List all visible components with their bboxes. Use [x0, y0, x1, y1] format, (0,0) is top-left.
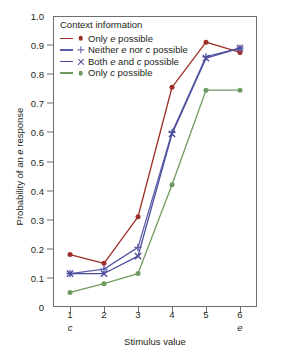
- series-line: [70, 48, 240, 274]
- data-point-dot: [238, 88, 243, 93]
- data-point-dot: [204, 88, 209, 93]
- data-point-dot: [68, 252, 73, 257]
- data-point-dot: [204, 40, 209, 45]
- series-dot: [68, 40, 243, 266]
- data-point-dot: [102, 281, 107, 286]
- data-point-dot: [102, 261, 107, 266]
- chart-container: 00.10.20.30.40.50.60.70.80.91.0 Probabil…: [0, 0, 286, 358]
- series-line: [70, 48, 240, 274]
- series-cross: [67, 45, 243, 277]
- data-point-dot: [170, 85, 175, 90]
- data-point-dot: [170, 182, 175, 187]
- series-plus: [66, 44, 243, 277]
- data-point-dot: [136, 271, 141, 276]
- data-layer: [0, 0, 286, 358]
- data-point-dot: [68, 290, 73, 295]
- data-point-dot: [136, 214, 141, 219]
